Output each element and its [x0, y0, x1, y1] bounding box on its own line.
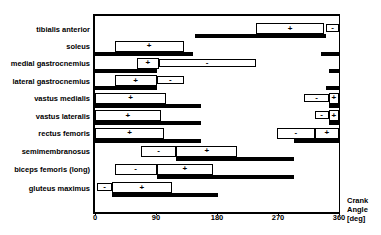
plus-sign: +	[133, 76, 138, 84]
emg-box: +	[115, 75, 157, 86]
minus-sign: -	[320, 111, 323, 119]
activation-bar	[195, 34, 326, 38]
plus-sign: +	[324, 129, 329, 137]
emg-box: -	[315, 111, 329, 119]
y-axis-label: vastus lateralis	[0, 112, 90, 121]
emg-box: +	[95, 93, 166, 104]
plus-sign: +	[332, 111, 337, 119]
plot-area: +-++-+-+-++-++-+-+-+-+	[93, 14, 340, 214]
x-axis-title-line-2: Angle	[347, 205, 368, 214]
x-axis-title-line-1: Crank	[347, 196, 368, 205]
emg-box: -	[304, 94, 328, 102]
emg-box: -	[141, 146, 176, 157]
activation-bar	[321, 52, 339, 56]
minus-sign: -	[134, 165, 137, 173]
plus-sign: +	[128, 94, 133, 102]
emg-box: +	[137, 58, 159, 69]
emg-box: +	[112, 182, 172, 193]
x-axis-tick-label: 0	[83, 213, 107, 222]
emg-box: -	[159, 59, 256, 67]
plus-sign: +	[147, 42, 152, 50]
emg-box: +	[315, 128, 339, 139]
activation-bar	[329, 104, 339, 108]
activation-bar	[95, 139, 201, 143]
y-axis-label: vastus medialis	[0, 94, 90, 103]
activation-bar	[95, 52, 193, 56]
activation-bar	[112, 193, 218, 197]
emg-box: -	[277, 128, 314, 139]
y-axis-label: gluteus maximus	[0, 184, 90, 193]
y-axis-label: medial gastrocnemius	[0, 59, 90, 68]
plus-sign: +	[182, 165, 187, 173]
emg-box: -	[157, 76, 184, 84]
plus-sign: +	[146, 59, 151, 67]
plus-sign: +	[332, 94, 337, 102]
activation-bar	[294, 139, 339, 143]
activation-bar	[95, 69, 157, 73]
emg-box: +	[329, 93, 339, 104]
emg-box: -	[115, 164, 157, 175]
minus-sign: -	[103, 183, 106, 191]
emg-box: +	[157, 164, 213, 175]
x-axis-title-line-3: [deg]	[347, 214, 365, 223]
x-axis-tick-label: 270	[266, 213, 290, 222]
activation-bar	[95, 86, 157, 90]
y-axis-label: rectus femoris	[0, 129, 90, 138]
activation-bar	[326, 86, 339, 90]
x-axis-tick-label: 180	[205, 213, 229, 222]
emg-box: +	[115, 41, 184, 52]
y-axis-label: lateral gastrocnemius	[0, 77, 90, 86]
plus-sign: +	[127, 129, 132, 137]
plus-sign: +	[139, 183, 144, 191]
y-axis-label: biceps femoris (long)	[0, 165, 90, 174]
activation-bar	[95, 121, 201, 125]
y-axis-label: semimembranosus	[0, 147, 90, 156]
activation-bar	[329, 69, 339, 73]
y-axis-label: soleus	[0, 42, 90, 51]
minus-sign: -	[169, 76, 172, 84]
activation-bar	[176, 157, 293, 161]
emg-box: -	[326, 24, 339, 32]
emg-box: +	[95, 128, 164, 139]
y-axis-label: tibialis anterior	[0, 25, 90, 34]
minus-sign: -	[331, 24, 334, 32]
plus-sign: +	[126, 111, 131, 119]
emg-box: +	[95, 110, 161, 121]
figure: tibialis anteriorsoleusmedial gastrocnem…	[0, 0, 381, 235]
emg-box: +	[256, 23, 324, 34]
minus-sign: -	[157, 147, 160, 155]
minus-sign: -	[315, 93, 318, 101]
activation-bar	[329, 121, 339, 125]
plus-sign: +	[204, 147, 209, 155]
minus-sign: -	[206, 58, 209, 66]
minus-sign: -	[295, 129, 298, 137]
activation-bar	[157, 175, 294, 179]
emg-box: +	[176, 146, 237, 157]
activation-bar	[95, 104, 201, 108]
x-axis-tick-label: 90	[144, 213, 168, 222]
plus-sign: +	[288, 24, 293, 32]
emg-box: -	[97, 183, 112, 191]
emg-box: +	[329, 110, 339, 121]
